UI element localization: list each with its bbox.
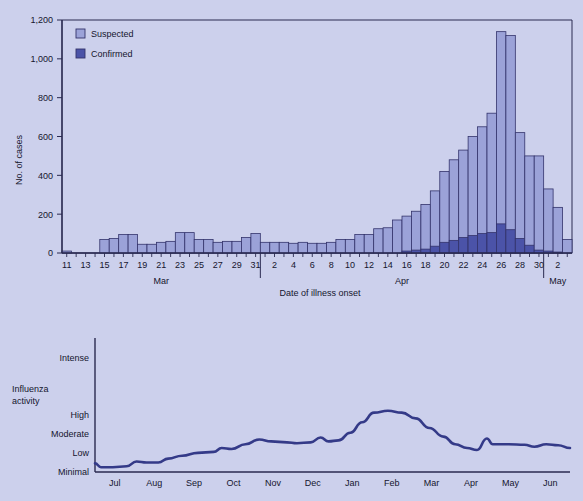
activity-x-label: Feb [384, 478, 400, 488]
top-chart-legend: Suspected Confirmed [76, 29, 134, 59]
bar-suspected [345, 239, 354, 253]
activity-x-label: Mar [424, 478, 440, 488]
bar-suspected [128, 235, 137, 253]
x-tick-label: 14 [383, 260, 393, 270]
x-tick-label: 16 [402, 260, 412, 270]
bar-suspected [241, 237, 250, 253]
activity-x-label: Jun [543, 478, 558, 488]
bar-suspected [553, 207, 562, 253]
charts-svg: 02004006008001,0001,200 1113151719212325… [0, 0, 583, 501]
bar-suspected [308, 243, 317, 253]
x-tick-label: 25 [194, 260, 204, 270]
bar-suspected [411, 211, 420, 253]
x-tick-label: 26 [496, 260, 506, 270]
x-tick-label: 13 [81, 260, 91, 270]
x-tick-label: 18 [421, 260, 431, 270]
bar-suspected [534, 156, 543, 253]
x-tick-label: 24 [477, 260, 487, 270]
top-chart-x-ticks: 1113151719212325272931246810121416182022… [62, 253, 567, 270]
bar-suspected [260, 242, 269, 253]
bar-suspected [213, 242, 222, 253]
activity-x-label: Jul [109, 478, 121, 488]
month-label: May [549, 276, 567, 286]
x-tick-label: 28 [515, 260, 525, 270]
y-tick-label: 200 [38, 210, 53, 220]
bar-suspected [496, 32, 505, 253]
legend-swatch-suspected [76, 29, 85, 38]
y-tick-label: 0 [48, 248, 53, 258]
x-tick-label: 4 [291, 260, 296, 270]
x-tick-label: 19 [137, 260, 147, 270]
bar-confirmed [525, 245, 534, 253]
x-tick-label: 10 [345, 260, 355, 270]
bar-confirmed [478, 234, 487, 253]
activity-x-label: May [502, 478, 520, 488]
x-tick-label: 21 [156, 260, 166, 270]
activity-y-label: Intense [59, 353, 89, 363]
bar-suspected [506, 36, 515, 253]
bar-suspected [355, 235, 364, 253]
bar-suspected [185, 233, 194, 253]
x-tick-label: 15 [99, 260, 109, 270]
bar-suspected [166, 241, 175, 253]
bar-suspected [364, 235, 373, 253]
bar-suspected [270, 242, 279, 253]
bar-confirmed [449, 240, 458, 253]
x-tick-label: 29 [232, 260, 242, 270]
y-tick-label: 1,000 [30, 54, 53, 64]
x-tick-label: 30 [534, 260, 544, 270]
top-chart-y-axis-title: No. of cases [14, 134, 24, 185]
bottom-chart-axis-title-line1: Influenza [12, 384, 49, 394]
bar-suspected [563, 239, 572, 253]
activity-x-label: Sep [186, 478, 202, 488]
x-tick-label: 23 [175, 260, 185, 270]
bar-suspected [156, 242, 165, 253]
bar-confirmed [506, 230, 515, 253]
activity-x-label: Apr [464, 478, 478, 488]
bottom-chart-axis-title-line2: activity [12, 396, 40, 406]
bar-suspected [402, 216, 411, 253]
activity-x-label: Aug [146, 478, 162, 488]
top-chart-x-axis-title: Date of illness onset [279, 288, 361, 298]
activity-x-label: Nov [265, 478, 282, 488]
bar-suspected [175, 233, 184, 253]
y-tick-label: 600 [38, 132, 53, 142]
x-tick-label: 17 [118, 260, 128, 270]
bar-confirmed [459, 237, 468, 253]
bar-suspected [487, 113, 496, 253]
activity-y-label: Low [72, 448, 89, 458]
activity-y-label: High [70, 410, 89, 420]
bar-confirmed [430, 246, 439, 253]
figure-container: 02004006008001,0001,200 1113151719212325… [0, 0, 583, 501]
bar-suspected [223, 241, 232, 253]
bar-suspected [430, 191, 439, 253]
bar-suspected [119, 235, 128, 253]
activity-x-label: Oct [227, 478, 242, 488]
activity-x-label: Jan [345, 478, 360, 488]
top-chart-y-ticks: 02004006008001,0001,200 [30, 15, 62, 258]
bar-suspected [232, 241, 241, 253]
bar-confirmed [487, 233, 496, 253]
bar-suspected [251, 234, 260, 253]
influenza-activity-line [95, 411, 570, 467]
bar-suspected [317, 243, 326, 253]
x-tick-label: 31 [251, 260, 261, 270]
bar-series-group [62, 32, 572, 253]
y-tick-label: 800 [38, 93, 53, 103]
x-tick-label: 8 [329, 260, 334, 270]
bar-suspected [544, 189, 553, 253]
bottom-chart-x-tick-labels: JulAugSepOctNovDecJanFebMarAprMayJun [109, 478, 557, 488]
bar-suspected [109, 238, 118, 253]
activity-y-label: Moderate [51, 429, 89, 439]
bottom-line-chart: MinimalLowModerateHighIntense JulAugSepO… [12, 338, 570, 488]
top-bar-chart: 02004006008001,0001,200 1113151719212325… [14, 15, 572, 298]
x-tick-label: 2 [555, 260, 560, 270]
bar-suspected [204, 239, 213, 253]
bar-suspected [138, 244, 147, 253]
bar-confirmed [440, 242, 449, 253]
bar-suspected [393, 220, 402, 253]
bar-suspected [515, 133, 524, 253]
bar-confirmed [515, 238, 524, 253]
month-label: Mar [153, 276, 169, 286]
bar-suspected [525, 156, 534, 253]
